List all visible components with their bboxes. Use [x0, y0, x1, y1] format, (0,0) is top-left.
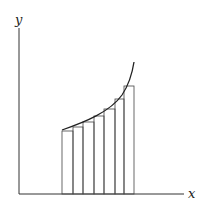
rectangles: [62, 86, 134, 194]
curve: [62, 62, 134, 130]
x-axis-label: x: [188, 186, 196, 201]
riemann-sum-diagram: y x: [0, 0, 204, 210]
y-axis-label: y: [14, 12, 23, 27]
diagram-svg: y x: [0, 0, 204, 210]
